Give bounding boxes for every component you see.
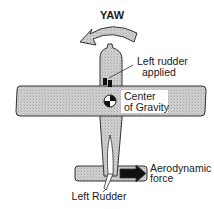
center-of-gravity-icon — [104, 95, 116, 107]
label-left-rudder: Left Rudder — [72, 190, 127, 202]
label-aerodynamic-force-2: force — [150, 172, 174, 184]
diagram-title: YAW — [100, 9, 125, 21]
curved-arrow-left-icon — [80, 27, 137, 45]
yaw-diagram: YAW Left rudder applied Cen — [0, 0, 214, 209]
label-left-rudder-applied-2: applied — [142, 66, 176, 78]
label-center-of-gravity-2: of Gravity — [124, 101, 170, 113]
